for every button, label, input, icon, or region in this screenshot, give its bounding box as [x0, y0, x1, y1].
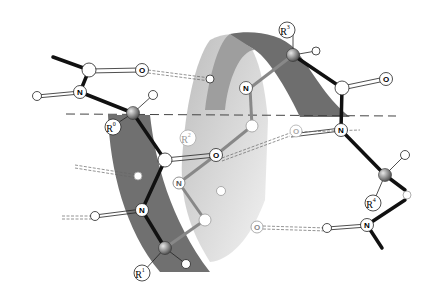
- svg-text:O: O: [254, 223, 260, 232]
- svg-text:N: N: [364, 221, 370, 230]
- alpha-helix-diagram: N O N O O O N N N O N R0 R2 R3 R4 R1: [0, 0, 432, 301]
- atom-n-3: N: [335, 124, 348, 137]
- residue-r2: R2: [180, 130, 196, 146]
- svg-text:N: N: [176, 179, 182, 188]
- atom-n-5: N: [136, 204, 149, 217]
- svg-text:N: N: [77, 88, 83, 97]
- atom-n-6: N: [361, 219, 374, 232]
- atom-o-5: O: [251, 221, 263, 233]
- atom-o-4: O: [290, 125, 302, 137]
- svg-text:O: O: [139, 66, 145, 75]
- atom-n-2: N: [240, 82, 253, 95]
- svg-text:N: N: [338, 126, 344, 135]
- svg-text:O: O: [213, 151, 219, 160]
- helix-svg: N O N O O O N N N O N R0 R2 R3 R4 R1: [0, 0, 432, 301]
- svg-text:N: N: [243, 84, 249, 93]
- atom-o-2: O: [380, 73, 393, 86]
- svg-text:O: O: [293, 127, 299, 136]
- atom-o-1: O: [136, 64, 149, 77]
- residue-r3: R3: [279, 22, 295, 38]
- residue-r4: R4: [365, 195, 381, 211]
- atom-n-4: N: [173, 177, 185, 189]
- atom-o-3: O: [210, 149, 223, 162]
- svg-text:O: O: [383, 75, 389, 84]
- atom-n-1: N: [74, 86, 87, 99]
- residue-r1: R1: [134, 265, 150, 281]
- svg-text:N: N: [139, 206, 145, 215]
- residue-r0: R0: [105, 119, 121, 135]
